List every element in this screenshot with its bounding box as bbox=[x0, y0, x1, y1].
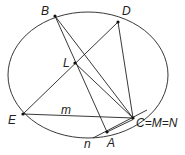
label-c: C=M=N bbox=[136, 116, 178, 130]
segment-ac-inner bbox=[107, 120, 133, 133]
point-d bbox=[116, 20, 119, 23]
label-n: n bbox=[84, 137, 91, 151]
point-b bbox=[53, 14, 56, 17]
label-a: A bbox=[106, 136, 115, 150]
geometry-diagram: B D L E C=M=N A m n bbox=[0, 0, 185, 155]
segment-dc bbox=[118, 22, 133, 118]
segment-lc bbox=[75, 63, 133, 118]
label-d: D bbox=[122, 4, 131, 18]
label-l: L bbox=[63, 56, 70, 70]
point-e bbox=[21, 112, 24, 115]
line-m-ec bbox=[23, 114, 133, 118]
label-m: m bbox=[61, 103, 71, 117]
label-e: E bbox=[8, 113, 17, 127]
point-a bbox=[105, 130, 108, 133]
point-l bbox=[73, 61, 76, 64]
label-b: B bbox=[41, 4, 49, 18]
point-c bbox=[131, 116, 134, 119]
